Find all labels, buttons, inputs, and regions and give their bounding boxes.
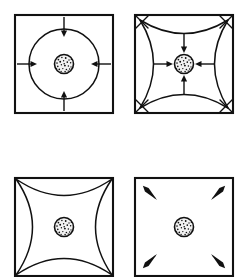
stippled-core xyxy=(175,55,194,74)
figure-canvas xyxy=(0,0,248,277)
stippled-core xyxy=(175,218,194,237)
stippled-core xyxy=(55,55,74,74)
stippled-core xyxy=(55,218,74,237)
four-panel-diagram xyxy=(0,0,248,277)
